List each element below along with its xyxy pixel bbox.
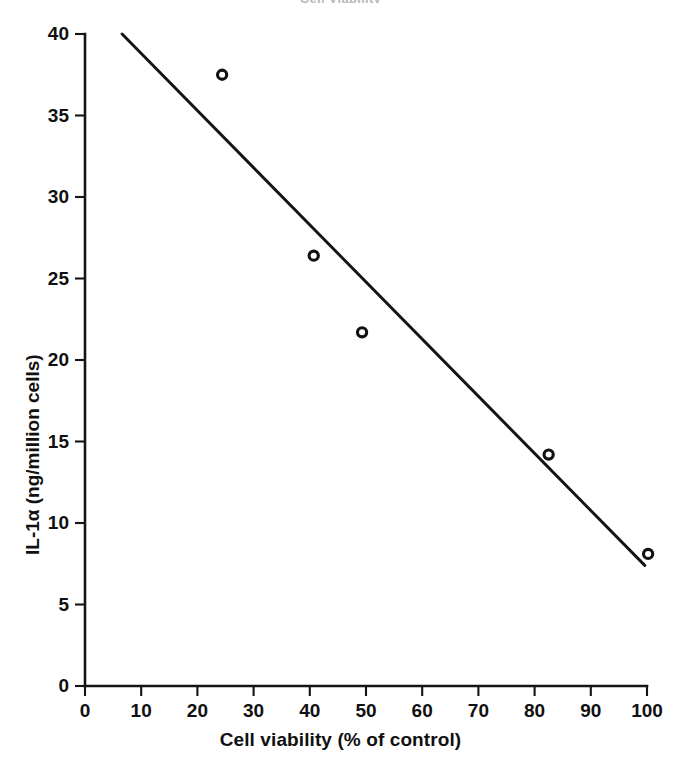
x-tick-label: 100 <box>631 700 663 722</box>
figure-container: Cell Viability 0510152025303540 01020304… <box>0 0 681 765</box>
y-tick-label: 40 <box>48 23 69 45</box>
y-tick-label: 15 <box>48 431 69 453</box>
y-tick-label: 5 <box>58 594 69 616</box>
y-tick-label: 30 <box>48 186 69 208</box>
y-tick-label: 0 <box>58 675 69 697</box>
x-tick-label: 20 <box>187 700 208 722</box>
ticks-group <box>75 34 647 696</box>
x-tick-label: 40 <box>299 700 320 722</box>
data-point-marker <box>644 549 653 558</box>
data-markers-group <box>218 70 653 558</box>
data-point-marker <box>309 251 318 260</box>
x-tick-label: 80 <box>524 700 545 722</box>
y-tick-label: 25 <box>48 268 69 290</box>
data-point-marker <box>218 70 227 79</box>
trend-line-group <box>122 34 645 565</box>
x-tick-label: 50 <box>355 700 376 722</box>
y-tick-label: 10 <box>48 512 69 534</box>
y-tick-label: 20 <box>48 349 69 371</box>
data-point-marker <box>357 328 366 337</box>
x-axis-title: Cell viability (% of control) <box>0 729 681 751</box>
x-tick-label: 90 <box>580 700 601 722</box>
x-tick-label: 60 <box>412 700 433 722</box>
x-tick-label: 10 <box>131 700 152 722</box>
data-point-marker <box>544 450 553 459</box>
regression-line <box>122 34 645 565</box>
y-axis-title: IL-1α (ng/million cells) <box>22 354 44 555</box>
scatter-plot-canvas <box>0 0 681 765</box>
x-tick-label: 0 <box>80 700 91 722</box>
x-tick-label: 70 <box>468 700 489 722</box>
x-tick-label: 30 <box>243 700 264 722</box>
axes-group <box>85 34 647 686</box>
y-tick-label: 35 <box>48 105 69 127</box>
